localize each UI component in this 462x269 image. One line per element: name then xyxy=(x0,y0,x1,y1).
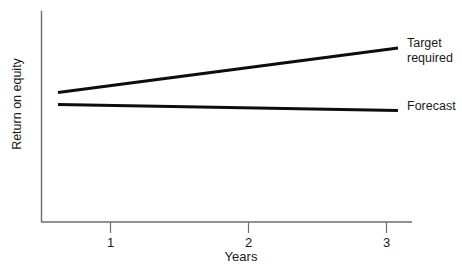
series-line-target-required xyxy=(58,48,398,93)
x-tick-label-2: 2 xyxy=(245,235,252,250)
x-tick-label-3: 3 xyxy=(383,235,390,250)
x-axis-title: Years xyxy=(225,249,258,264)
series-label-target-line1: Target xyxy=(407,36,442,50)
series-label-forecast: Forecast xyxy=(407,99,456,113)
chart-container: 1 2 3 Years Return on equity Target requ… xyxy=(0,0,462,269)
y-axis-title: Return on equity xyxy=(10,57,24,149)
series-label-target-line2: required xyxy=(407,51,453,65)
x-tick-label-1: 1 xyxy=(107,235,114,250)
series-line-forecast xyxy=(58,105,398,111)
chart-canvas: 1 2 3 Years Return on equity Target requ… xyxy=(0,0,462,269)
